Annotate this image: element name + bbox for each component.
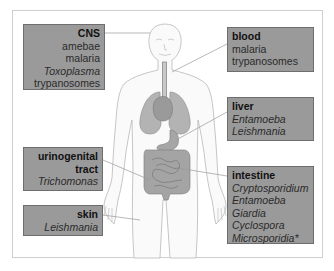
box-title-liver: liver bbox=[232, 100, 309, 113]
box-item: Entamoeba bbox=[232, 194, 309, 207]
intestines bbox=[144, 150, 190, 200]
box-item: Leishmania bbox=[232, 125, 309, 138]
heart bbox=[153, 97, 172, 122]
box-item: malaria bbox=[232, 43, 309, 56]
label-box-urinogenital: urinogenital tract Trichomonas bbox=[23, 147, 103, 191]
box-item: Leishmania bbox=[28, 221, 98, 234]
box-item: Cryptosporidium bbox=[232, 182, 309, 195]
box-item: amebae bbox=[28, 40, 100, 53]
box-item: Cyclospora bbox=[232, 219, 309, 232]
box-title-cns: CNS bbox=[28, 27, 100, 40]
trachea bbox=[163, 62, 167, 100]
box-title-skin: skin bbox=[28, 208, 98, 221]
label-box-liver: liver Entamoeba Leishmania bbox=[227, 97, 314, 141]
box-item: Microsporidia* bbox=[232, 232, 309, 245]
box-title-urinogenital-line1: urinogenital bbox=[28, 150, 98, 163]
box-title-intestine: intestine bbox=[232, 169, 309, 182]
body-outline bbox=[104, 24, 226, 258]
box-item: trypanosomes bbox=[232, 55, 309, 68]
box-item: Toxoplasma bbox=[28, 65, 100, 78]
box-item: Entamoeba bbox=[232, 113, 309, 126]
box-item: Giardia bbox=[232, 207, 309, 220]
box-title-urinogenital-line2: tract bbox=[28, 163, 98, 176]
label-box-skin: skin Leishmania bbox=[23, 205, 103, 236]
label-box-intestine: intestine Cryptosporidium Entamoeba Giar… bbox=[227, 166, 314, 244]
box-item: malaria bbox=[28, 52, 100, 65]
box-item: trypanosomes bbox=[28, 77, 100, 90]
label-box-cns: CNS amebae malaria Toxoplasma trypanosom… bbox=[23, 24, 105, 90]
box-title-blood: blood bbox=[232, 30, 309, 43]
label-box-blood: blood malaria trypanosomes bbox=[227, 27, 314, 72]
hands bbox=[104, 206, 226, 222]
box-item: Trichomonas bbox=[28, 175, 98, 188]
